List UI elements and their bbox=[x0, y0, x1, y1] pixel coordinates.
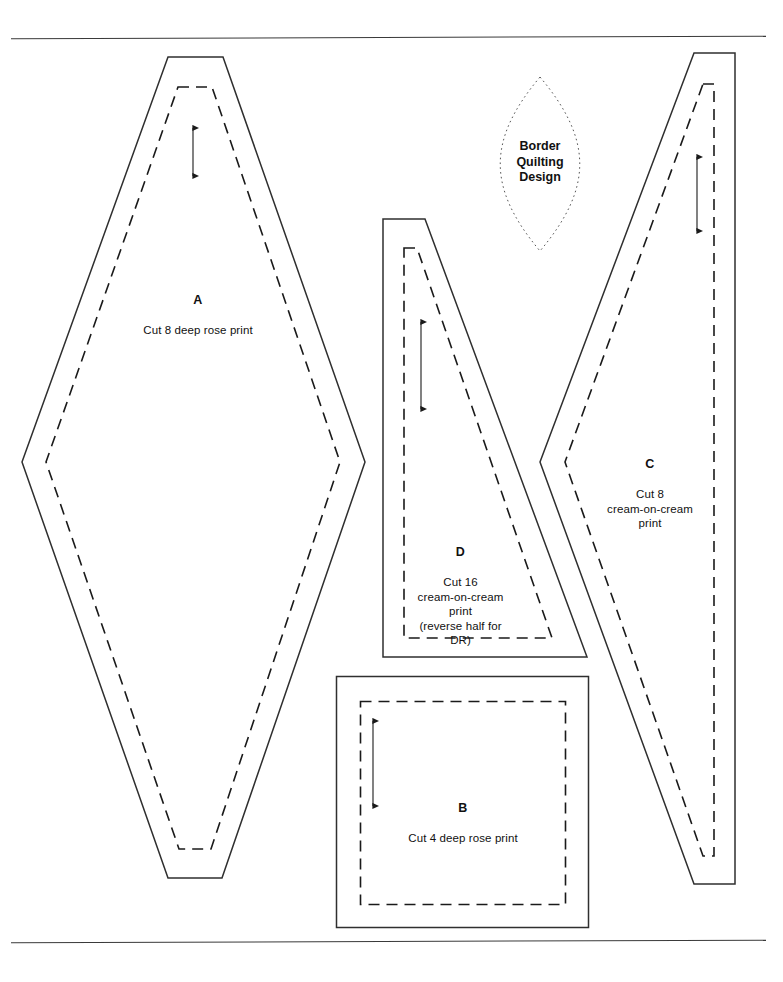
border-quilting-design-label: Border Quilting Design bbox=[489, 139, 591, 186]
piece-a-outline[interactable] bbox=[22, 57, 365, 878]
pattern-sheet: A Cut 8 deep rose print D Cut 16 cream-o… bbox=[0, 0, 783, 982]
piece-a-group[interactable] bbox=[22, 57, 365, 878]
piece-b-group[interactable] bbox=[337, 677, 589, 928]
piece-b-outline[interactable] bbox=[337, 677, 589, 928]
template-shapes-layer bbox=[0, 0, 783, 982]
